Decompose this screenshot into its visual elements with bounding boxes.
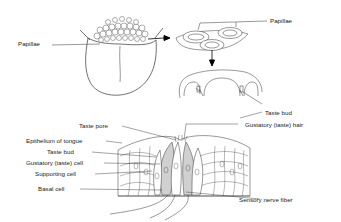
- label-epithelium: Epithelium of tongue: [26, 138, 82, 144]
- arrow-down-icon: [210, 50, 215, 66]
- label-sensory-nerve: Sensory nerve fiber: [239, 197, 293, 203]
- taste-bud-section-illustration: [110, 135, 250, 220]
- papillae-closeup-illustration: [176, 21, 267, 51]
- label-taste-pore: Taste pore: [79, 123, 108, 129]
- papilla-section-illustration: [179, 70, 262, 104]
- label-taste-bud-upper: Taste bud: [265, 110, 292, 116]
- label-supporting-cell: Supporting cell: [35, 171, 76, 177]
- label-papillae-tongue: Papillae: [18, 41, 40, 47]
- label-papillae-closeup: Papillae: [270, 18, 292, 24]
- arrow-right-icon: [148, 36, 170, 41]
- tongue-illustration: [80, 17, 163, 96]
- label-basal-cell: Basal cell: [38, 186, 64, 192]
- label-gustatory-cell: Gustatory (taste) cell: [26, 160, 83, 166]
- label-taste-bud-lower: Taste bud: [47, 149, 74, 155]
- label-gustatory-hair: Gustatory (taste) hair: [245, 122, 303, 128]
